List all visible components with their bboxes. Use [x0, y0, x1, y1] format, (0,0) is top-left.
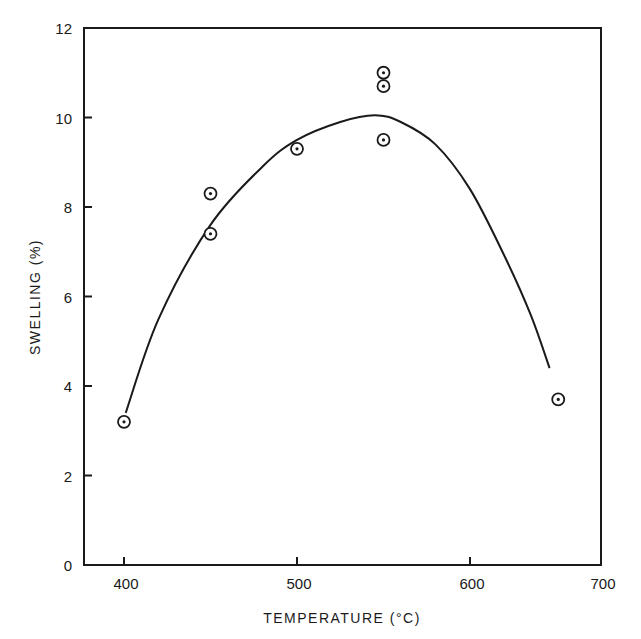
- data-point: [552, 393, 564, 405]
- y-tick-label: 8: [64, 199, 72, 216]
- x-axis-title: TEMPERATURE (°C): [263, 610, 421, 626]
- data-point: [118, 416, 130, 428]
- data-point: [205, 188, 217, 200]
- y-tick-label: 2: [64, 468, 72, 485]
- y-tick-label: 4: [64, 378, 72, 395]
- data-point: [378, 67, 390, 79]
- data-point: [205, 228, 217, 240]
- x-axis-ticks: 400500600700: [113, 557, 615, 592]
- x-tick-label: 400: [113, 575, 138, 592]
- y-tick-label: 10: [55, 110, 72, 127]
- y-axis-title: SWELLING (%): [27, 239, 43, 355]
- data-point: [378, 134, 390, 146]
- fitted-curve: [126, 115, 550, 413]
- y-tick-label: 6: [64, 289, 72, 306]
- data-point: [378, 80, 390, 92]
- x-tick-label: 600: [459, 575, 484, 592]
- x-tick-label: 700: [590, 575, 615, 592]
- y-tick-label: 0: [64, 557, 72, 574]
- x-tick-label: 500: [286, 575, 311, 592]
- y-tick-label: 12: [55, 20, 72, 37]
- swelling-vs-temperature-chart: 024681012 400500600700 TEMPERATURE (°C) …: [0, 0, 641, 639]
- data-point: [291, 143, 303, 155]
- y-axis-ticks: 024681012: [55, 20, 92, 574]
